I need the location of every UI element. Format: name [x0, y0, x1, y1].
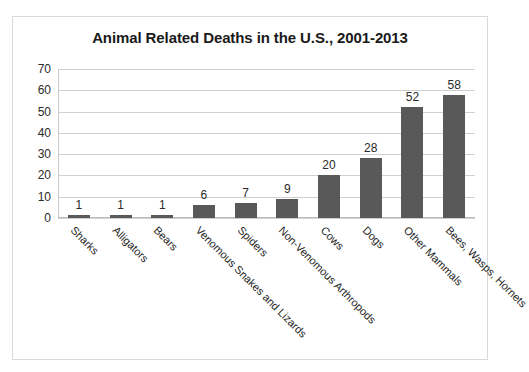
- bar[interactable]: [68, 215, 90, 218]
- bar-value-label: 1: [159, 198, 166, 212]
- chart-title: Animal Related Deaths in the U.S., 2001-…: [13, 29, 487, 46]
- y-axis-tick-label: 30: [38, 147, 51, 161]
- bar[interactable]: [235, 203, 257, 218]
- x-axis-label-slot: Bears: [141, 220, 183, 350]
- bar-group: 1: [58, 69, 100, 218]
- bar[interactable]: [360, 158, 382, 218]
- x-axis-label-slot: Other Mammals: [392, 220, 434, 350]
- bar[interactable]: [110, 215, 132, 218]
- bar-group: 1: [100, 69, 142, 218]
- bar-group: 1: [141, 69, 183, 218]
- bar[interactable]: [276, 199, 298, 218]
- y-axis-tick-label: 0: [44, 211, 51, 225]
- bar-value-label: 58: [447, 78, 460, 92]
- x-axis-label-slot: Dogs: [350, 220, 392, 350]
- x-axis-tick-label: Dogs: [360, 224, 387, 251]
- bar[interactable]: [443, 95, 465, 218]
- y-axis-tick-label: 20: [38, 168, 51, 182]
- x-axis-labels: SharksAlligatorsBearsVenomous Snakes and…: [58, 220, 475, 350]
- bar-group: 7: [225, 69, 267, 218]
- x-axis-label-slot: Alligators: [100, 220, 142, 350]
- bar-group: 28: [350, 69, 392, 218]
- x-axis-label-slot: Non-Venomous Arthropods: [267, 220, 309, 350]
- bar-value-label: 20: [322, 158, 335, 172]
- x-axis-label-slot: Bees, Wasps, Hornets: [433, 220, 475, 350]
- x-axis-tick-label: Spiders: [235, 224, 270, 259]
- x-axis-tick-label: Cows: [319, 224, 347, 252]
- bar[interactable]: [401, 107, 423, 218]
- bar-group: 20: [308, 69, 350, 218]
- bar-value-label: 52: [406, 90, 419, 104]
- bar-group: 52: [392, 69, 434, 218]
- bar-group: 58: [433, 69, 475, 218]
- bar[interactable]: [318, 175, 340, 218]
- bar-group: 6: [183, 69, 225, 218]
- x-axis-label-slot: Venomous Snakes and Lizards: [183, 220, 225, 350]
- bar-value-label: 1: [76, 198, 83, 212]
- y-axis-tick-label: 60: [38, 83, 51, 97]
- bar[interactable]: [151, 215, 173, 218]
- bar-value-label: 6: [201, 188, 208, 202]
- bar[interactable]: [193, 205, 215, 218]
- bar-value-label: 28: [364, 141, 377, 155]
- gridline: [58, 218, 475, 219]
- x-axis-label-slot: Cows: [308, 220, 350, 350]
- y-axis-tick-label: 50: [38, 105, 51, 119]
- y-axis-tick-label: 10: [38, 190, 51, 204]
- x-axis-tick-label: Sharks: [68, 224, 101, 257]
- bar-value-label: 1: [117, 198, 124, 212]
- x-axis-tick-label: Bears: [152, 224, 181, 253]
- x-axis-label-slot: Sharks: [58, 220, 100, 350]
- plot-area: 01020304050607011167920285258: [58, 69, 475, 218]
- bar-value-label: 9: [284, 182, 291, 196]
- y-axis-tick-label: 40: [38, 126, 51, 140]
- x-axis-tick-label: Bees, Wasps, Hornets: [444, 224, 529, 310]
- chart-frame: Animal Related Deaths in the U.S., 2001-…: [12, 16, 488, 360]
- x-axis-label-slot: Spiders: [225, 220, 267, 350]
- y-axis-tick-label: 70: [38, 62, 51, 76]
- bar-value-label: 7: [242, 186, 249, 200]
- bar-group: 9: [267, 69, 309, 218]
